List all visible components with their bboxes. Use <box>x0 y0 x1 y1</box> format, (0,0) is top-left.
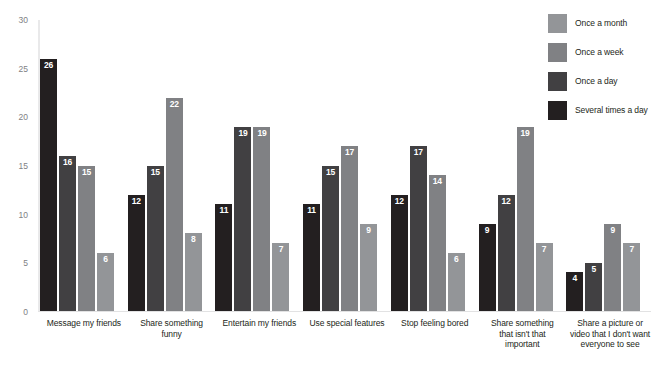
bar[interactable]: 5 <box>585 263 602 312</box>
bar[interactable]: 12 <box>128 195 145 311</box>
bar[interactable]: 17 <box>341 146 358 311</box>
bar-value-label: 26 <box>40 61 57 70</box>
x-axis-category-label: Entertain my friends <box>215 318 303 350</box>
bar-group: 1217146 <box>391 20 479 311</box>
x-axis-category-line: Share a picture or <box>568 318 652 329</box>
bar-value-label: 17 <box>410 148 427 157</box>
x-axis-category-line: that isn't that <box>481 329 565 340</box>
bar[interactable]: 7 <box>536 243 553 311</box>
x-axis-category-line: Stop feeling bored <box>393 318 477 329</box>
bar[interactable]: 19 <box>517 127 534 311</box>
bar-group: 2616156 <box>40 20 128 311</box>
bar[interactable]: 4 <box>566 272 583 311</box>
y-axis-tick: 30 <box>19 15 28 25</box>
legend-swatch-icon <box>548 72 567 91</box>
bar[interactable]: 9 <box>604 224 621 311</box>
legend-item[interactable]: Once a week <box>548 43 648 62</box>
bar[interactable]: 12 <box>391 195 408 311</box>
bar-value-label: 15 <box>322 168 339 177</box>
legend-swatch-icon <box>548 14 567 33</box>
bar[interactable]: 12 <box>498 195 515 311</box>
y-axis-tick: 10 <box>19 210 28 220</box>
x-axis-category-line: Message my friends <box>42 318 126 329</box>
bar-value-label: 15 <box>78 168 95 177</box>
y-axis: 051015202530 <box>0 20 34 312</box>
bar[interactable]: 15 <box>322 166 339 312</box>
bar-chart: 051015202530 261615612152281119197111517… <box>0 0 660 366</box>
bar[interactable]: 11 <box>303 204 320 311</box>
y-axis-tick: 15 <box>19 161 28 171</box>
bar-value-label: 9 <box>360 226 377 235</box>
x-axis-category-label: Use special features <box>303 318 391 350</box>
bar[interactable]: 9 <box>360 224 377 311</box>
bar[interactable]: 16 <box>59 156 76 311</box>
x-axis-category-label: Message my friends <box>40 318 128 350</box>
bar[interactable]: 8 <box>185 233 202 311</box>
bar[interactable]: 11 <box>215 204 232 311</box>
legend-label: Once a month <box>575 19 627 28</box>
bar[interactable]: 19 <box>234 127 251 311</box>
bar-value-label: 19 <box>253 129 270 138</box>
bar[interactable]: 22 <box>166 98 183 311</box>
x-axis-category-line: Use special features <box>305 318 389 329</box>
bar[interactable]: 9 <box>479 224 496 311</box>
bar-value-label: 19 <box>517 129 534 138</box>
x-axis-baseline <box>38 311 651 312</box>
x-axis-categories: Message my friendsShare something funnyE… <box>40 318 654 350</box>
legend-swatch-icon <box>548 43 567 62</box>
y-axis-tick: 25 <box>19 64 28 74</box>
bar-value-label: 12 <box>498 197 515 206</box>
legend-item[interactable]: Once a day <box>548 72 648 91</box>
bar[interactable]: 26 <box>40 59 57 311</box>
bar[interactable]: 15 <box>147 166 164 312</box>
chart-legend: Once a monthOnce a weekOnce a daySeveral… <box>548 14 648 120</box>
legend-item[interactable]: Several times a day <box>548 101 648 120</box>
bar-value-label: 9 <box>479 226 496 235</box>
bar[interactable]: 7 <box>272 243 289 311</box>
bar-value-label: 22 <box>166 100 183 109</box>
x-axis-category-line: important <box>481 339 565 350</box>
bar-value-label: 7 <box>272 245 289 254</box>
x-axis-category-line: Share something funny <box>130 318 214 339</box>
x-axis-category-line: Entertain my friends <box>217 318 301 329</box>
bar-value-label: 11 <box>303 206 320 215</box>
bar-group: 1115179 <box>303 20 391 311</box>
bar[interactable]: 15 <box>78 166 95 312</box>
bar[interactable]: 14 <box>429 175 446 311</box>
bar-value-label: 6 <box>448 255 465 264</box>
bar-value-label: 12 <box>391 197 408 206</box>
x-axis-category-line: everyone to see <box>568 339 652 350</box>
bar-value-label: 14 <box>429 177 446 186</box>
bar-value-label: 4 <box>566 274 583 283</box>
x-axis-category-label: Share something funny <box>128 318 216 350</box>
bar[interactable]: 19 <box>253 127 270 311</box>
bar-group: 1215228 <box>128 20 216 311</box>
bar-value-label: 8 <box>185 235 202 244</box>
x-axis-category-label: Share a picture orvideo that I don't wan… <box>566 318 654 350</box>
bar-value-label: 7 <box>623 245 640 254</box>
bar-value-label: 16 <box>59 158 76 167</box>
legend-label: Once a day <box>575 77 617 86</box>
y-axis-tick: 0 <box>23 307 28 317</box>
bar-value-label: 5 <box>585 265 602 274</box>
bar-value-label: 12 <box>128 197 145 206</box>
bar[interactable]: 6 <box>97 253 114 311</box>
bar[interactable]: 6 <box>448 253 465 311</box>
bar-group: 1119197 <box>215 20 303 311</box>
bar-value-label: 19 <box>234 129 251 138</box>
legend-item[interactable]: Once a month <box>548 14 648 33</box>
x-axis-category-line: Share something <box>481 318 565 329</box>
bar-value-label: 15 <box>147 168 164 177</box>
y-axis-tick: 5 <box>23 258 28 268</box>
legend-label: Several times a day <box>575 106 648 115</box>
bar-value-label: 6 <box>97 255 114 264</box>
bar-value-label: 17 <box>341 148 358 157</box>
bar[interactable]: 7 <box>623 243 640 311</box>
y-axis-tick: 20 <box>19 112 28 122</box>
legend-label: Once a week <box>575 48 624 57</box>
x-axis-category-label: Share somethingthat isn't thatimportant <box>479 318 567 350</box>
bar-value-label: 11 <box>215 206 232 215</box>
x-axis-category-line: video that I don't want <box>568 329 652 340</box>
bar-value-label: 7 <box>536 245 553 254</box>
bar[interactable]: 17 <box>410 146 427 311</box>
